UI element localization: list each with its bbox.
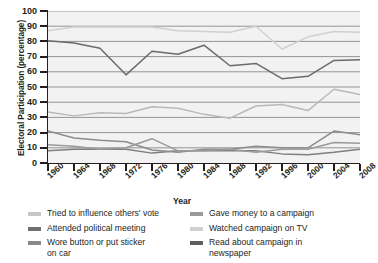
y-tick-80 <box>40 40 48 42</box>
y-tick-20 <box>40 132 48 134</box>
legend-label: Read about campaign in <box>190 237 362 248</box>
series-line-0 <box>48 89 360 118</box>
chart-lines <box>48 11 360 163</box>
legend-label: Tried to influence others' vote <box>28 208 193 219</box>
plot-area <box>48 11 360 163</box>
legend-swatch-icon <box>28 227 41 231</box>
legend-swatch-icon <box>190 227 203 231</box>
y-tick-label-50: 50 <box>0 83 37 92</box>
y-tick-label-0: 0 <box>0 159 37 168</box>
legend-item[interactable]: Gave money to a campaign <box>190 208 362 222</box>
legend-column-right: Gave money to a campaignWatched campaign… <box>190 208 362 261</box>
legend-item[interactable]: Watched campaign on TV <box>190 223 362 237</box>
y-tick-label-40: 40 <box>0 98 37 107</box>
legend-label: Watched campaign on TV <box>190 223 362 234</box>
y-tick-10 <box>40 147 48 149</box>
legend-item[interactable]: Wore button or put stickeron car <box>28 237 193 260</box>
legend-label: Wore button or put sticker <box>28 237 193 248</box>
legend-item[interactable]: Read about campaign innewspaper <box>190 237 362 260</box>
y-tick-label-10: 10 <box>0 143 37 152</box>
y-tick-30 <box>40 116 48 118</box>
y-tick-50 <box>40 86 48 88</box>
series-line-3 <box>48 139 360 153</box>
legend-label: Gave money to a campaign <box>190 208 362 219</box>
legend-swatch-icon <box>190 241 203 245</box>
legend-swatch-icon <box>28 241 41 245</box>
y-tick-label-60: 60 <box>0 67 37 76</box>
y-tick-70 <box>40 56 48 58</box>
y-tick-60 <box>40 71 48 73</box>
legend-item[interactable]: Attended political meeting <box>28 223 193 237</box>
legend-swatch-icon <box>190 212 203 216</box>
y-tick-40 <box>40 101 48 103</box>
legend-label: Attended political meeting <box>28 223 193 234</box>
legend-item[interactable]: Tried to influence others' vote <box>28 208 193 222</box>
legend-column-left: Tried to influence others' voteAttended … <box>28 208 193 261</box>
y-tick-label-70: 70 <box>0 52 37 61</box>
y-tick-label-100: 100 <box>0 7 37 16</box>
legend-label-line2: newspaper <box>190 248 362 259</box>
series-line-5 <box>48 41 360 79</box>
chart-legend: Tried to influence others' voteAttended … <box>0 208 364 263</box>
legend-swatch-icon <box>28 212 41 216</box>
y-tick-label-30: 30 <box>0 113 37 122</box>
y-tick-label-90: 90 <box>0 22 37 31</box>
y-tick-90 <box>40 25 48 27</box>
y-tick-label-20: 20 <box>0 128 37 137</box>
y-tick-100 <box>40 10 48 12</box>
x-axis-title: Year <box>0 196 364 206</box>
y-tick-label-80: 80 <box>0 37 37 46</box>
legend-label-line2: on car <box>28 248 193 259</box>
